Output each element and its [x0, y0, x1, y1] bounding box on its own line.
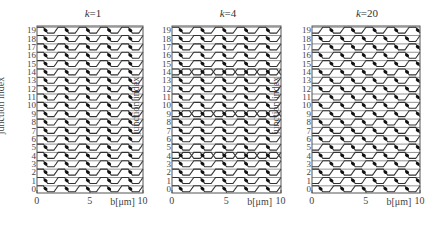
junction-wave [37, 77, 143, 83]
y-tick-label: 9 [299, 110, 311, 118]
junction-wave [172, 144, 281, 150]
y-tick-label: 0 [299, 185, 311, 193]
junction-wave [37, 36, 143, 42]
junction-wave [37, 119, 143, 125]
junction-wave [312, 161, 420, 167]
junction-wave [172, 61, 281, 67]
y-tick-label: 14 [299, 68, 311, 76]
y-tick-label: 16 [299, 51, 311, 59]
junction-wave [312, 102, 420, 108]
junction-wave [172, 178, 281, 184]
junction-wave [37, 144, 143, 150]
y-tick-label: 18 [159, 35, 171, 43]
y-tick-label: 11 [159, 93, 171, 101]
y-tick-label: 18 [299, 35, 311, 43]
x-tick-label: 10 [137, 195, 147, 206]
y-tick-label: 4 [299, 152, 311, 160]
x-tick-label: 5 [224, 195, 229, 206]
junction-wave [172, 119, 281, 125]
y-tick-label: 7 [159, 127, 171, 135]
junction-wave [37, 111, 143, 117]
junction-wave [37, 102, 143, 108]
y-tick-label: 7 [24, 127, 36, 135]
junction-wave [312, 119, 420, 125]
junction-wave [37, 161, 143, 167]
junction-wave [312, 136, 420, 142]
y-tick-label: 16 [159, 51, 171, 59]
junction-wave [37, 44, 143, 50]
y-tick-label: 10 [299, 101, 311, 109]
y-tick-label: 18 [24, 35, 36, 43]
junction-wave [37, 86, 143, 92]
junction-wave [312, 152, 420, 158]
x-tick-label: 0 [34, 195, 39, 206]
y-tick-label: 17 [24, 43, 36, 51]
y-tick-label: 4 [159, 152, 171, 160]
y-tick-label: 6 [159, 135, 171, 143]
y-tick-label: 1 [299, 177, 311, 185]
junction-wave [172, 27, 281, 33]
y-tick-label: 12 [159, 85, 171, 93]
junction-wave [312, 36, 420, 42]
y-tick-label: 12 [299, 85, 311, 93]
y-tick-label: 10 [159, 101, 171, 109]
junction-wave [312, 178, 420, 184]
y-tick-label: 1 [24, 177, 36, 185]
junction-wave [37, 152, 143, 158]
y-tick-label: 3 [159, 160, 171, 168]
junction-wave [172, 161, 281, 167]
junction-wave [37, 27, 143, 33]
junction-wave [172, 136, 281, 142]
junction-wave [37, 69, 143, 75]
y-tick-label: 2 [24, 168, 36, 176]
junction-wave [312, 52, 420, 58]
junction-wave [172, 94, 281, 100]
y-tick-label: 0 [159, 185, 171, 193]
junction-wave [312, 27, 420, 33]
y-tick-label: 14 [159, 68, 171, 76]
y-tick-label: 11 [24, 93, 36, 101]
y-tick-label: 6 [24, 135, 36, 143]
y-tick-label: 13 [299, 76, 311, 84]
y-tick-label: 2 [299, 168, 311, 176]
y-tick-label: 1 [159, 177, 171, 185]
y-tick-label: 16 [24, 51, 36, 59]
junction-wave [172, 52, 281, 58]
y-tick-label: 5 [299, 143, 311, 151]
junction-wave [172, 169, 281, 175]
junction-wave [312, 127, 420, 133]
junction-wave [312, 61, 420, 67]
junction-wave [37, 169, 143, 175]
x-tick-label: 5 [87, 195, 92, 206]
y-tick-label: 9 [159, 110, 171, 118]
plot-frame [312, 26, 420, 193]
junction-wave [37, 61, 143, 67]
y-tick-label: 8 [299, 118, 311, 126]
y-tick-label: 13 [24, 76, 36, 84]
junction-wave [312, 44, 420, 50]
y-tick-label: 14 [24, 68, 36, 76]
y-tick-label: 4 [24, 152, 36, 160]
plot-frame [37, 26, 143, 193]
junction-wave [312, 86, 420, 92]
x-axis-label: b[μm] [387, 196, 412, 207]
plot-k1 [37, 26, 143, 193]
plot-frame [172, 26, 281, 193]
plot-k4 [172, 26, 281, 193]
y-tick-label: 15 [299, 60, 311, 68]
y-tick-label: 15 [159, 60, 171, 68]
x-tick-label: 10 [275, 195, 285, 206]
x-axis-label: b[μm] [247, 196, 272, 207]
y-tick-label: 8 [24, 118, 36, 126]
junction-wave [312, 111, 420, 117]
y-tick-label: 9 [24, 110, 36, 118]
junction-wave [172, 102, 281, 108]
junction-wave [312, 77, 420, 83]
junction-wave [312, 94, 420, 100]
y-tick-label: 10 [24, 101, 36, 109]
junction-wave [37, 94, 143, 100]
junction-wave [37, 52, 143, 58]
junction-wave [312, 69, 420, 75]
y-tick-label: 17 [299, 43, 311, 51]
y-tick-label: 19 [159, 26, 171, 34]
